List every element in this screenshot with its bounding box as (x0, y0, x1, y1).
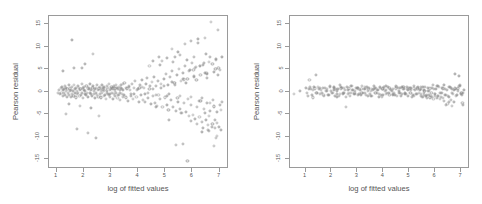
y-axis-title-right-text: Pearson residual (252, 63, 261, 120)
data-point (218, 104, 221, 107)
data-point (104, 97, 107, 100)
data-point (137, 101, 140, 104)
y-tick-label: 5 (280, 65, 283, 72)
data-point (220, 100, 223, 103)
data-point (438, 98, 441, 101)
y-tick-label: -15 (34, 155, 42, 162)
data-point (162, 85, 165, 88)
data-point (185, 110, 188, 113)
data-point (221, 55, 224, 58)
y-tick-label: 0 (39, 87, 42, 94)
y-tick (285, 158, 289, 159)
y-tick-label: 15 (36, 20, 42, 27)
data-point (165, 103, 168, 106)
y-tick-label: 15 (277, 20, 283, 27)
data-point (177, 67, 180, 70)
data-point (184, 81, 187, 84)
data-point (62, 70, 65, 73)
data-point (190, 40, 193, 43)
data-point (148, 64, 151, 67)
data-point (78, 104, 81, 107)
data-point (215, 111, 218, 114)
x-axis-title-left: log of fitted values (48, 184, 228, 194)
data-point (131, 82, 134, 85)
data-point (194, 117, 197, 120)
data-point (158, 64, 161, 67)
data-point (186, 77, 189, 80)
data-point (165, 57, 168, 60)
data-point (154, 85, 157, 88)
data-point (89, 107, 92, 110)
data-point (206, 102, 209, 105)
data-point (173, 83, 176, 86)
x-axis-title-right: log of fitted values (289, 184, 469, 194)
data-point (198, 116, 201, 119)
data-point (212, 70, 215, 73)
y-tick (44, 158, 48, 159)
data-point (161, 106, 164, 109)
data-point (189, 104, 192, 107)
data-point (67, 102, 70, 105)
data-point (191, 113, 194, 116)
data-point (199, 74, 202, 77)
data-point (452, 101, 455, 104)
data-point (143, 93, 146, 96)
data-point (188, 69, 191, 72)
y-axis-title-left-text: Pearson residual (11, 63, 20, 120)
data-point (306, 94, 309, 97)
y-tick (44, 68, 48, 69)
plot-frame-left (48, 15, 228, 168)
y-tick-label: -10 (34, 132, 42, 139)
data-point (111, 98, 114, 101)
data-point (176, 96, 179, 99)
x-tick-label: 6 (432, 172, 435, 179)
data-point (187, 98, 190, 101)
data-point (220, 129, 223, 132)
data-point (122, 88, 125, 91)
data-point (196, 122, 199, 125)
data-point (211, 63, 214, 66)
data-point (128, 88, 131, 91)
data-point (196, 105, 199, 108)
data-point (292, 92, 295, 95)
data-point (203, 61, 206, 64)
data-point (204, 53, 207, 56)
data-point (86, 131, 89, 134)
data-point (382, 93, 385, 96)
y-tick (285, 91, 289, 92)
data-point (175, 73, 178, 76)
data-point (139, 93, 142, 96)
x-tick-label: 2 (329, 172, 332, 179)
data-point (186, 160, 189, 163)
data-point (208, 115, 211, 118)
data-point (82, 96, 85, 99)
data-point (453, 73, 456, 76)
y-tick-label: -5 (37, 110, 42, 117)
data-point (183, 43, 186, 46)
data-point (370, 95, 373, 98)
x-tick-label: 1 (303, 172, 306, 179)
y-tick (285, 23, 289, 24)
data-point (176, 100, 179, 103)
data-point (204, 111, 207, 114)
data-point (451, 104, 454, 107)
y-tick (44, 23, 48, 24)
data-point (210, 21, 213, 24)
data-point (144, 100, 147, 103)
data-point (327, 94, 330, 97)
data-point (335, 95, 338, 98)
data-point (126, 100, 129, 103)
panel-left: 1234567 -15-10-5051015 log of fitted val… (0, 0, 241, 204)
x-tick-label: 1 (54, 172, 57, 179)
data-point (97, 114, 100, 117)
data-point (147, 96, 150, 99)
y-tick (44, 113, 48, 114)
data-point (123, 81, 126, 84)
data-point (216, 28, 219, 31)
data-point (219, 108, 222, 111)
data-point (135, 95, 138, 98)
data-point (209, 55, 212, 58)
y-tick-label: -10 (275, 132, 283, 139)
data-point (213, 144, 216, 147)
data-point (175, 144, 178, 147)
